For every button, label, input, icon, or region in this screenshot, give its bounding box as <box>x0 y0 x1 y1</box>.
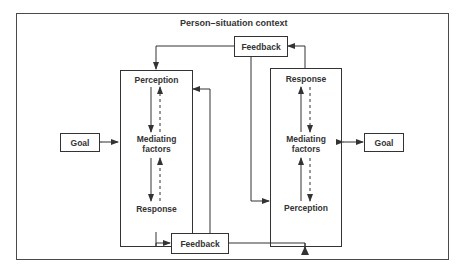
left-goal-label: Goal <box>71 138 90 148</box>
right-goal-label: Goal <box>375 138 394 148</box>
top-feedback-label: Feedback <box>241 42 280 52</box>
top-feedback-box: Feedback <box>234 36 288 57</box>
left-goal-box: Goal <box>60 133 100 152</box>
left-factors-label: factors <box>120 144 193 155</box>
right-goal-box: Goal <box>364 133 404 152</box>
bottom-feedback-label: Feedback <box>180 239 219 249</box>
right-system-box <box>270 68 342 247</box>
right-perception-label: Perception <box>270 203 342 214</box>
context-label: Person–situation context <box>180 18 288 28</box>
left-perception-label: Perception <box>120 75 193 86</box>
left-response-label: Response <box>120 204 193 215</box>
right-response-label: Response <box>270 74 342 85</box>
right-factors-label: factors <box>270 144 342 155</box>
bottom-feedback-box: Feedback <box>171 233 229 254</box>
left-system-box <box>120 70 193 247</box>
